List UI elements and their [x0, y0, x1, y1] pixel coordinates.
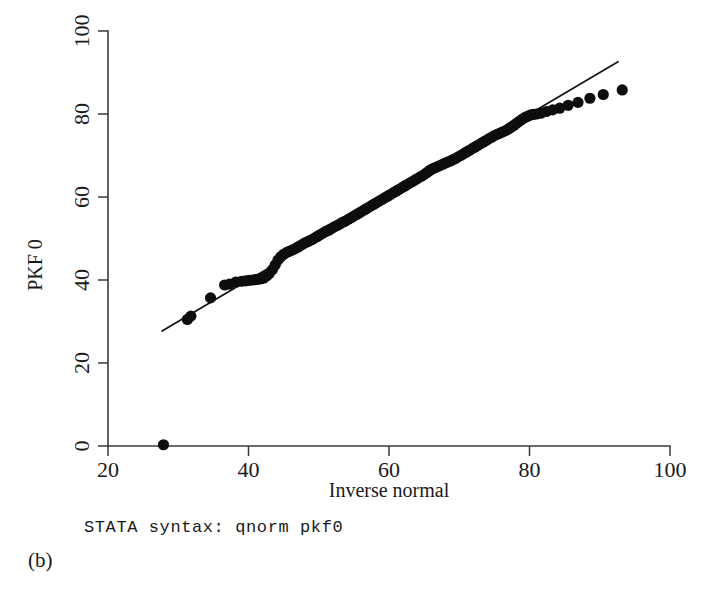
- data-point: [158, 439, 169, 450]
- stata-syntax-caption: STATA syntax: qnorm pkf0: [84, 518, 343, 537]
- data-point: [598, 89, 609, 100]
- data-point: [185, 311, 196, 322]
- data-point: [617, 84, 628, 95]
- y-tick-label: 40: [69, 269, 94, 291]
- x-axis-title: Inverse normal: [329, 479, 450, 501]
- y-axis-title: PKF 0: [24, 239, 46, 291]
- y-axis-ticks: [98, 31, 108, 446]
- x-tick-label: 40: [238, 457, 260, 482]
- subfigure-label: (b): [28, 548, 53, 573]
- data-point-group: [158, 84, 628, 450]
- qq-plot: 020406080100 20406080100 PKF 0 Inverse n…: [0, 0, 704, 601]
- data-point: [563, 100, 574, 111]
- x-tick-label: 80: [519, 457, 541, 482]
- x-axis-ticks: [108, 446, 670, 456]
- data-point: [205, 292, 216, 303]
- x-tick-label: 100: [654, 457, 687, 482]
- y-tick-label: 0: [69, 441, 94, 452]
- data-point: [584, 93, 595, 104]
- y-tick-label: 100: [69, 15, 94, 48]
- y-tick-label: 60: [69, 186, 94, 208]
- y-tick-label: 80: [69, 103, 94, 125]
- data-point: [572, 97, 583, 108]
- x-tick-label: 20: [97, 457, 119, 482]
- y-tick-label: 20: [69, 352, 94, 374]
- y-axis-tick-labels: 020406080100: [69, 15, 94, 452]
- figure-container: 020406080100 20406080100 PKF 0 Inverse n…: [0, 0, 704, 601]
